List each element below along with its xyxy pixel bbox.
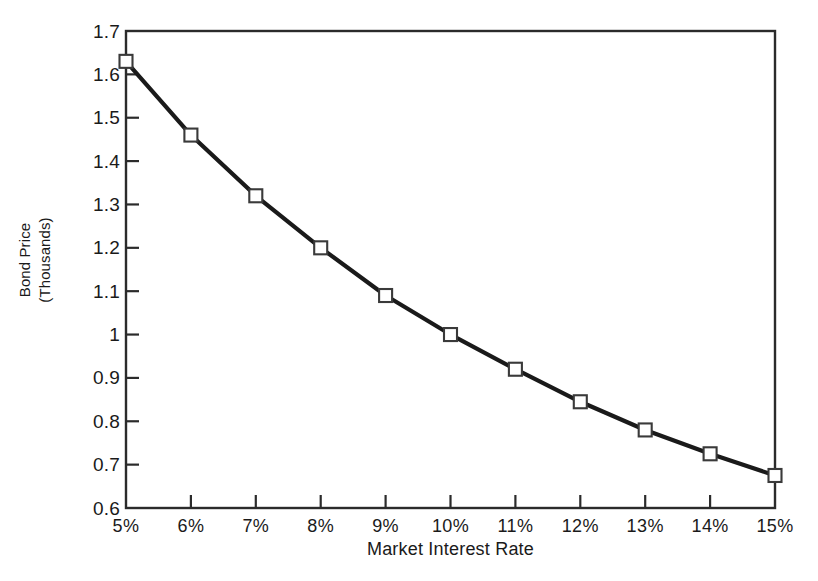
series-polyline <box>126 61 775 475</box>
data-point-marker <box>769 469 782 482</box>
data-point-marker <box>249 189 262 202</box>
data-series-markers <box>120 55 782 482</box>
data-point-marker <box>120 55 133 68</box>
data-point-marker <box>509 363 522 376</box>
data-point-marker <box>704 447 717 460</box>
y-axis-ticks <box>126 74 139 464</box>
data-point-marker <box>444 328 457 341</box>
data-point-marker <box>184 129 197 142</box>
x-axis-ticks <box>191 495 710 508</box>
data-series-line <box>126 61 775 475</box>
data-point-marker <box>639 423 652 436</box>
chart-page: Bond Price (Thousands) 1.71.61.51.41.31.… <box>0 0 818 581</box>
data-point-marker <box>574 395 587 408</box>
plot-frame <box>126 31 775 508</box>
data-point-marker <box>314 241 327 254</box>
plot-area <box>0 0 818 581</box>
axis-frame <box>126 31 775 508</box>
data-point-marker <box>379 289 392 302</box>
